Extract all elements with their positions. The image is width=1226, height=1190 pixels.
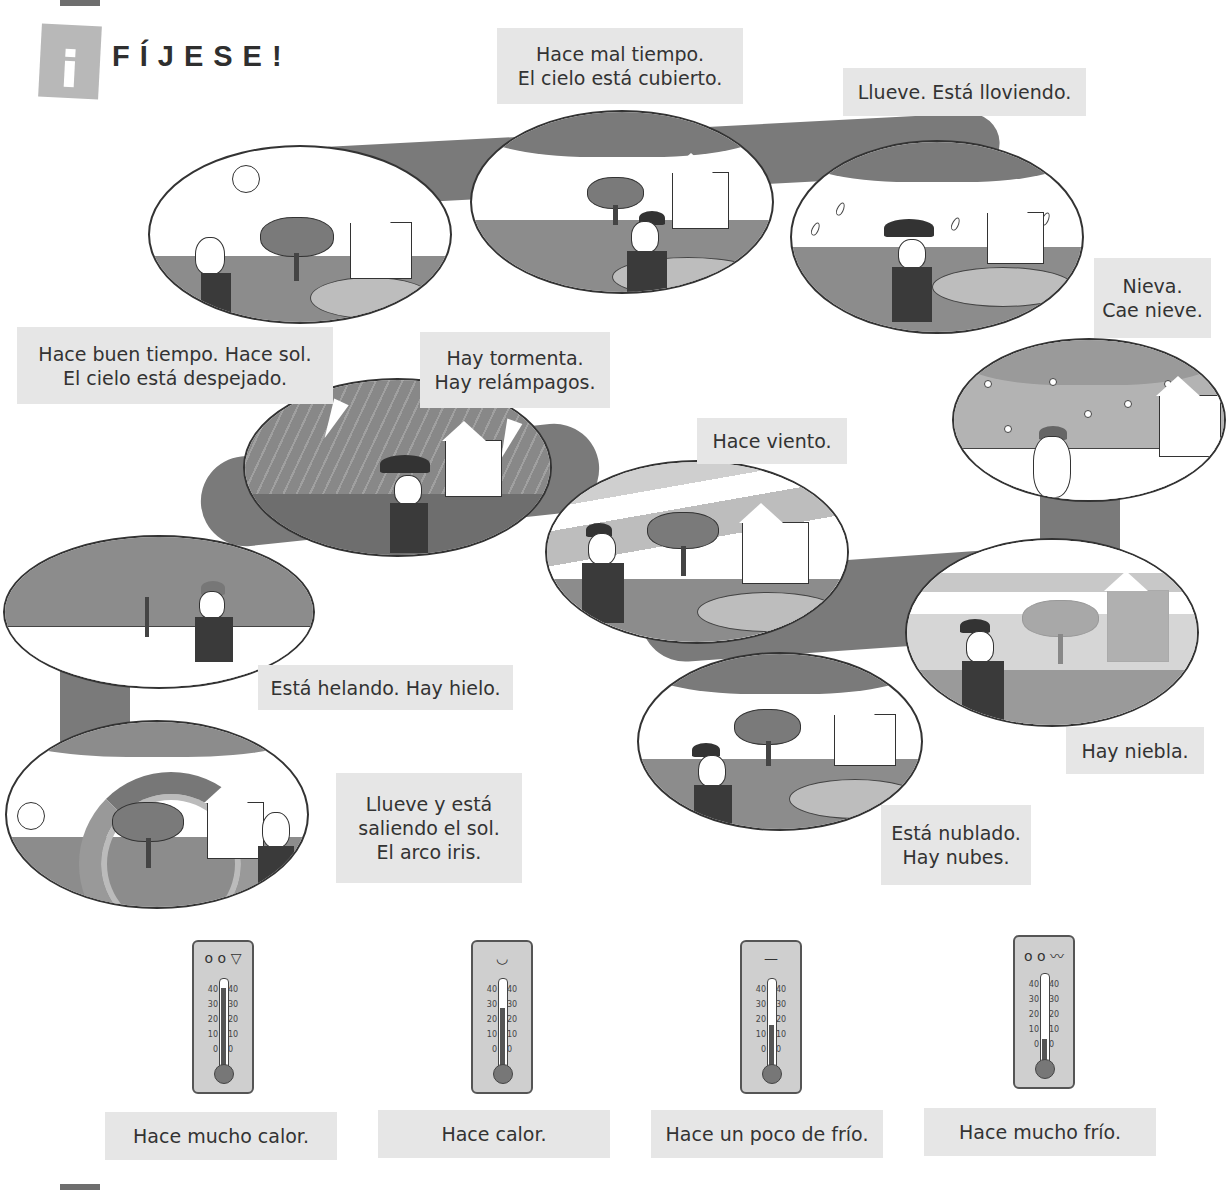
caption-hot: Hace calor. bbox=[378, 1110, 610, 1158]
thermometer-scale: 403020100 bbox=[744, 982, 766, 1057]
caption-line: El arco iris. bbox=[377, 840, 482, 864]
caption-rainbow: Llueve y está saliendo el sol. El arco i… bbox=[336, 773, 522, 883]
scene-rain bbox=[790, 140, 1084, 334]
caption-very-hot: Hace mucho calor. bbox=[105, 1112, 337, 1160]
thermometer-scale: 403020100 bbox=[776, 982, 798, 1057]
house-icon bbox=[1159, 395, 1221, 457]
house-icon bbox=[742, 522, 809, 584]
caption-very-cold: Hace mucho frío. bbox=[924, 1108, 1156, 1156]
house-icon bbox=[445, 440, 502, 497]
caption-line: Está helando. Hay hielo. bbox=[271, 676, 501, 700]
house-icon bbox=[207, 802, 264, 859]
caption-line: Hace un poco de frío. bbox=[666, 1122, 869, 1146]
thermometer-scale: 403020100 bbox=[196, 982, 218, 1057]
house-icon bbox=[1107, 590, 1169, 662]
caption-line: Llueve. Está lloviendo. bbox=[858, 80, 1071, 104]
thermometer-very-cold-icon: o o 〰 403020100 403020100 bbox=[1013, 935, 1075, 1089]
caption-a-bit-cold: Hace un poco de frío. bbox=[651, 1110, 883, 1158]
caption-sunny: Hace buen tiempo. Hace sol. El cielo est… bbox=[17, 327, 333, 404]
thermometer-scale: 403020100 bbox=[475, 982, 497, 1057]
caption-cloudy: Está nublado. Hay nubes. bbox=[881, 805, 1031, 885]
scene-wind bbox=[545, 460, 849, 644]
snowflake-icon bbox=[1084, 410, 1092, 418]
sun-icon bbox=[232, 165, 260, 193]
caption-ice: Está helando. Hay hielo. bbox=[258, 665, 513, 710]
caption-line: saliendo el sol. bbox=[358, 816, 499, 840]
snowflake-icon bbox=[1049, 378, 1057, 386]
page-corner-tab-bottom bbox=[60, 1184, 100, 1190]
caption-line: Hace viento. bbox=[712, 429, 831, 453]
raindrop-icon bbox=[834, 201, 846, 217]
thermometer-face: ◡ bbox=[473, 950, 531, 966]
caption-line: Llueve y está bbox=[366, 792, 493, 816]
caption-line: Hace buen tiempo. Hace sol. bbox=[38, 342, 311, 366]
snowflake-icon bbox=[1004, 425, 1012, 433]
caption-line: Nieva. bbox=[1122, 274, 1182, 298]
caption-snow: Nieva. Cae nieve. bbox=[1094, 258, 1211, 338]
caption-line: Hace mucho frío. bbox=[959, 1120, 1121, 1144]
scene-overcast bbox=[470, 110, 774, 294]
thermometer-cool-icon: — 403020100 403020100 bbox=[740, 940, 802, 1094]
caption-line: Hay relámpagos. bbox=[434, 370, 595, 394]
caption-line: Hace calor. bbox=[441, 1122, 546, 1146]
caption-storm: Hay tormenta. Hay relámpagos. bbox=[420, 332, 610, 408]
caption-line: Cae nieve. bbox=[1102, 298, 1203, 322]
house-icon bbox=[672, 172, 729, 229]
snowflake-icon bbox=[1124, 400, 1132, 408]
caption-wind: Hace viento. bbox=[697, 418, 847, 464]
scene-sunny bbox=[148, 145, 452, 324]
scene-snow bbox=[952, 338, 1226, 502]
caption-line: Está nublado. bbox=[891, 821, 1021, 845]
page-title: FÍJESE! bbox=[112, 40, 292, 73]
house-icon bbox=[350, 222, 412, 279]
thermometer-scale: 403020100 bbox=[507, 982, 529, 1057]
sun-icon bbox=[17, 802, 45, 830]
thermometer-scale: 403020100 bbox=[228, 982, 250, 1057]
scene-fog bbox=[905, 538, 1199, 727]
caption-line: Hay niebla. bbox=[1081, 739, 1188, 763]
raindrop-icon bbox=[949, 216, 961, 232]
raindrop-icon bbox=[809, 221, 821, 237]
info-i-icon bbox=[38, 23, 102, 99]
scene-rainbow bbox=[5, 720, 309, 909]
thermometer-hot-icon: ◡ 403020100 403020100 bbox=[471, 940, 533, 1094]
thermometer-scale: 403020100 bbox=[1017, 977, 1039, 1052]
caption-line: Hay nubes. bbox=[903, 845, 1010, 869]
caption-line: Hay tormenta. bbox=[446, 346, 583, 370]
thermometer-very-hot-icon: o o ▽ 403020100 403020100 bbox=[192, 940, 254, 1094]
caption-rain: Llueve. Está lloviendo. bbox=[843, 68, 1086, 116]
caption-line: Hace mal tiempo. bbox=[536, 42, 704, 66]
thermometer-face: o o 〰 bbox=[1015, 945, 1073, 965]
caption-line: Hace mucho calor. bbox=[133, 1124, 309, 1148]
snowflake-icon bbox=[984, 380, 992, 388]
page-corner-tab-top bbox=[60, 0, 100, 6]
thermometer-scale: 403020100 bbox=[1049, 977, 1071, 1052]
caption-fog: Hay niebla. bbox=[1066, 727, 1204, 774]
caption-overcast: Hace mal tiempo. El cielo está cubierto. bbox=[497, 28, 743, 104]
caption-line: El cielo está cubierto. bbox=[518, 66, 723, 90]
thermometer-face: o o ▽ bbox=[194, 950, 252, 966]
house-icon bbox=[987, 212, 1044, 264]
caption-line: El cielo está despejado. bbox=[63, 366, 287, 390]
house-icon bbox=[834, 714, 896, 766]
thermometer-face: — bbox=[742, 950, 800, 966]
